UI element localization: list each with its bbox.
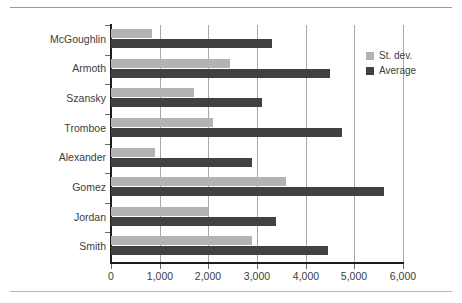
category-label-armoth: Armoth [2, 62, 106, 74]
x-tick-2000 [208, 264, 209, 269]
x-tick-5000 [354, 264, 355, 269]
legend-item-st-dev[interactable]: St. dev. [366, 48, 416, 63]
legend-item-average[interactable]: Average [366, 63, 416, 78]
gridline-4000 [306, 25, 307, 262]
bar-gomez-average [111, 187, 384, 196]
bar-jordan-average [111, 217, 276, 226]
x-tick-label: 0 [108, 270, 114, 282]
category-label-jordan: Jordan [2, 211, 106, 223]
bar-alexander-average [111, 158, 252, 167]
bar-tromboe-average [111, 128, 342, 137]
x-tick-0 [111, 264, 112, 269]
category-label-alexander: Alexander [2, 151, 106, 163]
bar-szansky-average [111, 98, 262, 107]
bar-mcgoughlin-average [111, 39, 272, 48]
legend-swatch-icon [366, 52, 374, 60]
gridline-3000 [257, 25, 258, 262]
bar-tromboe-st-dev [111, 118, 213, 127]
x-tick-6000 [403, 264, 404, 269]
x-tick-label: 2,000 [195, 270, 221, 282]
bar-smith-st-dev [111, 236, 252, 245]
bar-mcgoughlin-st-dev [111, 29, 152, 38]
x-tick-label: 1,000 [147, 270, 173, 282]
bar-jordan-st-dev [111, 207, 208, 216]
category-label-mcgoughlin: McGoughlin [2, 33, 106, 45]
bar-armoth-st-dev [111, 59, 230, 68]
category-labels: McGoughlinArmothSzanskyTromboeAlexanderG… [0, 0, 106, 303]
x-tick-label: 4,000 [293, 270, 319, 282]
bar-chart: McGoughlinArmothSzanskyTromboeAlexanderG… [0, 0, 462, 303]
category-label-tromboe: Tromboe [2, 122, 106, 134]
bar-alexander-st-dev [111, 148, 155, 157]
x-tick-label: 6,000 [390, 270, 416, 282]
legend-label: Average [379, 65, 416, 76]
x-tick-label: 3,000 [244, 270, 270, 282]
category-label-smith: Smith [2, 240, 106, 252]
category-label-szansky: Szansky [2, 92, 106, 104]
bar-gomez-st-dev [111, 177, 286, 186]
gridline-5000 [354, 25, 355, 262]
x-tick-4000 [306, 264, 307, 269]
x-tick-3000 [257, 264, 258, 269]
category-label-gomez: Gomez [2, 181, 106, 193]
bar-szansky-st-dev [111, 88, 194, 97]
legend-swatch-icon [366, 67, 374, 75]
legend-label: St. dev. [379, 50, 412, 61]
bar-smith-average [111, 246, 328, 255]
bar-armoth-average [111, 69, 330, 78]
figure-frame: McGoughlinArmothSzanskyTromboeAlexanderG… [0, 0, 462, 303]
x-tick-1000 [160, 264, 161, 269]
x-tick-label: 5,000 [341, 270, 367, 282]
chart-legend: St. dev.Average [366, 48, 416, 78]
